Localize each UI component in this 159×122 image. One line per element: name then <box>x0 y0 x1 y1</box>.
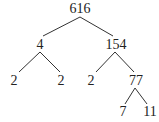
edge-154-2 <box>96 52 115 72</box>
node-154: 154 <box>106 38 127 52</box>
edge-616-4 <box>43 17 80 36</box>
edge-4-2-left <box>19 52 40 72</box>
node-77: 77 <box>129 74 143 88</box>
edge-154-77 <box>115 52 134 72</box>
node-4: 4 <box>37 38 44 52</box>
edge-77-7 <box>125 88 135 104</box>
node-2-left-left: 2 <box>11 74 18 88</box>
edge-77-11 <box>135 88 147 104</box>
node-2-left-right: 2 <box>58 74 65 88</box>
edge-616-154 <box>80 17 113 36</box>
node-7: 7 <box>120 105 127 119</box>
edge-4-2-right <box>40 52 60 72</box>
node-11: 11 <box>143 105 156 119</box>
factor-tree-edges <box>0 0 159 122</box>
node-2-right-left: 2 <box>88 74 95 88</box>
node-616: 616 <box>70 2 91 16</box>
